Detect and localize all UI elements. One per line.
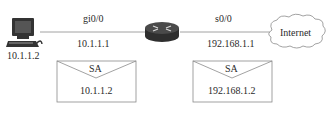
pc-ip-label: 10.1.1.2 bbox=[7, 51, 40, 61]
packet1-value-label: 10.1.1.2 bbox=[80, 86, 113, 96]
link2-interface-label: s0/0 bbox=[215, 14, 232, 24]
link1-interface-label: gi0/0 bbox=[83, 14, 104, 24]
packet2-value-label: 192.168.1.2 bbox=[208, 86, 256, 96]
router-icon bbox=[145, 22, 179, 42]
packet2-field-label: SA bbox=[225, 64, 238, 74]
link2-ip-label: 192.168.1.1 bbox=[207, 39, 255, 49]
computer-icon bbox=[6, 18, 42, 47]
internet-label: Internet bbox=[280, 28, 311, 38]
packet1-field-label: SA bbox=[89, 64, 102, 74]
link1-ip-label: 10.1.1.1 bbox=[77, 39, 110, 49]
diagram-canvas bbox=[0, 0, 334, 113]
